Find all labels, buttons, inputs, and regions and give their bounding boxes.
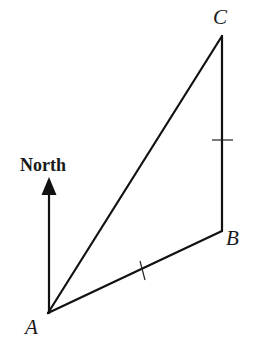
north-arrowhead-icon xyxy=(42,177,57,195)
point-label-c: C xyxy=(213,5,228,29)
point-label-b: B xyxy=(226,226,239,250)
point-label-a: A xyxy=(23,315,38,339)
triangle-diagram: North A B C xyxy=(0,0,254,362)
north-label: North xyxy=(20,155,66,175)
north-arrow xyxy=(42,177,57,313)
